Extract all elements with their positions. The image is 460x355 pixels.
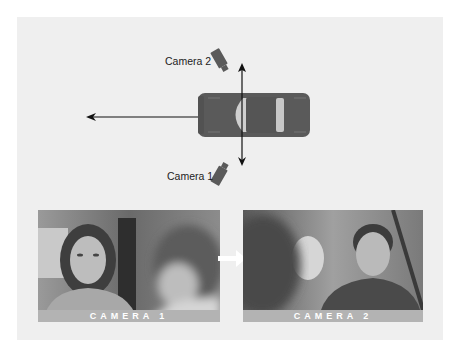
camera2-photo: CAMERA 2 <box>243 210 423 322</box>
camera-setup-diagram <box>0 0 460 200</box>
camera1-caption: CAMERA 1 <box>38 310 220 322</box>
camera2-caption: CAMERA 2 <box>243 310 423 322</box>
car-icon <box>198 93 310 137</box>
camera2-label: Camera 2 <box>165 55 211 67</box>
camera2-icon <box>210 48 230 73</box>
camera2-scene <box>243 210 423 322</box>
camera1-label: Camera 1 <box>167 170 213 182</box>
direction-arrow-icon <box>86 113 200 121</box>
camera1-scene <box>38 210 220 322</box>
camera1-photo: CAMERA 1 <box>38 210 220 322</box>
camera1-icon <box>210 161 230 186</box>
